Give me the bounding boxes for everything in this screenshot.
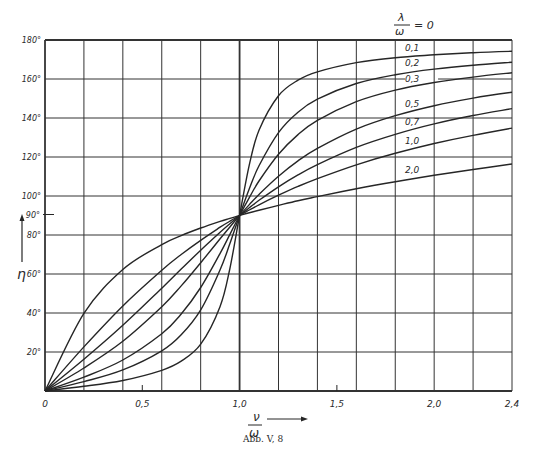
curve-label: 0,5 — [405, 99, 420, 109]
curve-labels: 0,10,20,30,50,71,02,0 — [405, 43, 420, 175]
y-tick-label: 120° — [22, 153, 41, 162]
legend-denominator: ω — [395, 25, 404, 38]
y-tick-label: 80° — [27, 231, 41, 240]
y-axis-label: η — [17, 214, 26, 282]
y-tick-label: 60° — [27, 270, 41, 279]
curve-label: 2,0 — [405, 165, 420, 175]
y-tick-label: 160° — [22, 75, 41, 84]
curve-label: 0,1 — [405, 43, 419, 53]
curve-label: 0,3 — [405, 74, 420, 84]
x-tick-label: 2,0 — [427, 399, 442, 409]
x-axis-numerator: ν — [253, 410, 260, 424]
legend-numerator: λ — [397, 11, 405, 24]
legend-suffix: = 0 — [414, 19, 434, 32]
y-tick-label: 90° — [26, 211, 40, 220]
y-tick-label: 100° — [22, 192, 41, 201]
x-tick-label: 1,0 — [232, 399, 247, 409]
y-axis-symbol: η — [17, 266, 26, 282]
x-axis-ticks: 00,51,01,52,02,4 — [42, 385, 519, 409]
x-tick-label: 0 — [42, 399, 48, 409]
arrow-right-icon — [301, 417, 308, 422]
x-tick-label: 1,5 — [330, 399, 345, 409]
arrow-up-icon — [20, 214, 25, 221]
x-tick-label: 2,4 — [505, 399, 520, 409]
x-tick-label: 0,5 — [135, 399, 150, 409]
figure-caption: Abb. V, 8 — [242, 434, 283, 444]
y-tick-label: 20° — [27, 348, 41, 357]
grid — [45, 40, 512, 391]
y-tick-label: 40° — [27, 309, 41, 318]
y-tick-label: 140° — [22, 114, 41, 123]
phase-response-chart: 20°40°60°80°90°100°120°140°160°180° 00,5… — [0, 0, 540, 458]
curve-label: 0,7 — [405, 117, 420, 127]
chart-canvas: 20°40°60°80°90°100°120°140°160°180° 00,5… — [0, 0, 540, 458]
curve-label: 0,2 — [405, 58, 420, 68]
legend-title: λ ω = 0 — [394, 11, 434, 38]
curve-label: 1,0 — [405, 136, 420, 146]
y-tick-label: 180° — [22, 36, 41, 45]
